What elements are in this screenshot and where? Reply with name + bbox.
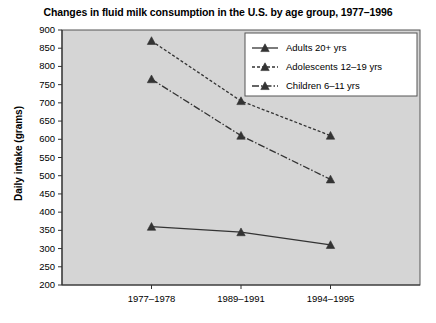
chart-container: Changes in fluid milk consumption in the… [0,0,436,323]
y-tick-label: 250 [39,261,55,272]
x-tick-label: 1989–1991 [217,293,265,304]
y-tick-label: 400 [39,206,55,217]
y-tick-label: 300 [39,243,55,254]
legend-label: Children 6–11 yrs [286,80,360,91]
x-tick-label: 1994–1995 [307,293,355,304]
plot-area: 2002503003504004505005506006507007508008… [0,0,436,323]
legend: Adults 20+ yrsAdolescents 12–19 yrsChild… [245,33,417,96]
y-tick-label: 200 [39,279,55,290]
legend-label: Adolescents 12–19 yrs [286,61,382,72]
y-tick-label: 850 [39,42,55,53]
y-tick-label: 500 [39,170,55,181]
x-axis-ticks: 1977–19781989–19911994–1995 [128,285,355,304]
y-tick-label: 750 [39,79,55,90]
y-tick-label: 650 [39,115,55,126]
y-tick-label: 350 [39,224,55,235]
y-tick-label: 900 [39,24,55,35]
y-tick-label: 700 [39,97,55,108]
y-tick-label: 450 [39,188,55,199]
y-tick-label: 800 [39,60,55,71]
y-tick-label: 550 [39,152,55,163]
legend-label: Adults 20+ yrs [286,42,347,53]
y-tick-label: 600 [39,133,55,144]
x-tick-label: 1977–1978 [128,293,176,304]
y-axis-ticks: 2002503003504004505005506006507007508008… [39,24,62,290]
